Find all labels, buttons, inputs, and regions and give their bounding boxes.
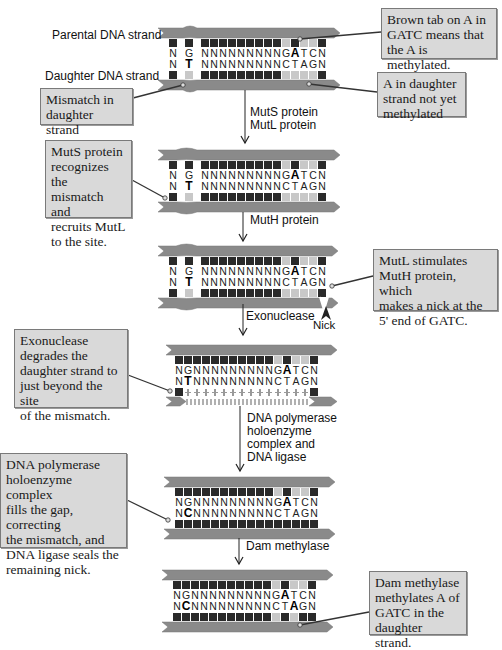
callout-line: daughter strand to [20, 363, 122, 378]
daughter-base-letter: N [255, 58, 263, 70]
daughter-base-tab [274, 520, 282, 528]
daughter-base-letter: T [282, 600, 289, 612]
leader-mutl [332, 276, 373, 286]
parental-base-tab [193, 356, 201, 364]
daughter-base-tab [282, 193, 290, 201]
daughter-base-letter: N [220, 507, 228, 519]
daughter-base-tab [193, 520, 201, 528]
parental-base-tab [202, 488, 210, 496]
daughter-base-letter: N [201, 58, 209, 70]
degraded-nucleotide [202, 399, 204, 405]
daughter-base-tab [255, 71, 263, 79]
daughter-base-letter: N [191, 600, 199, 612]
daughter-base-letter: T [292, 276, 299, 288]
callout-line: daughter strand [46, 107, 127, 137]
callout-dam: Dam methylase methylates A of GATC in th… [369, 571, 467, 635]
degraded-nucleotide [302, 399, 304, 405]
daughter-base-tab [200, 613, 208, 621]
parental-base-tab [210, 39, 218, 47]
parental-base-tab [246, 161, 254, 169]
parental-base-tab [219, 39, 227, 47]
degraded-nucleotide [198, 399, 200, 405]
degraded-nucleotide [222, 399, 224, 405]
daughter-base-tab [273, 193, 281, 201]
daughter-base-letter: N [173, 600, 181, 612]
daughter-base-letter: N [246, 180, 254, 192]
degraded-nucleotide [239, 392, 245, 393]
daughter-base-tab [256, 520, 264, 528]
daughter-base-letter: T [292, 180, 299, 192]
degraded-nucleotide [284, 392, 290, 393]
callout-line: just beyond the site [20, 378, 122, 408]
step-line: DNA ligase [247, 451, 337, 464]
degraded-nucleotide [294, 399, 296, 405]
parental-base-tab [173, 581, 181, 589]
parental-base-tab [273, 39, 281, 47]
daughter-base-tab [318, 289, 326, 297]
degraded-nucleotide [282, 399, 284, 405]
parental-base-tab [185, 39, 193, 47]
leader-muts [132, 180, 165, 198]
daughter-base-letter: T [292, 58, 299, 70]
callout-muts: MutS protein recognizes the mismatch and… [45, 140, 132, 218]
parental-base-tab [246, 39, 254, 47]
daughter-base-tab [309, 71, 317, 79]
daughter-base-tab [291, 193, 299, 201]
degraded-nucleotide [293, 392, 299, 393]
daughter-base-tab [263, 613, 271, 621]
daughter-base-letter: N [237, 58, 245, 70]
daughter-base-tab [237, 193, 245, 201]
daughter-base-letter: N [193, 507, 201, 519]
parental-base-tab [282, 257, 290, 265]
callout-line: MutH protein, which [379, 268, 492, 298]
parental-base-tab [228, 257, 236, 265]
parental-base-tab [210, 161, 218, 169]
daughter-base-tab [246, 193, 254, 201]
daughter-base-letter: N [265, 375, 273, 387]
callout-mismatch: Mismatch in daughter strand [40, 88, 133, 125]
daughter-base-tab [281, 613, 289, 621]
leader-exonuclease [128, 375, 170, 391]
leader-polymerase [127, 500, 168, 520]
parental-base-tab [255, 39, 263, 47]
daughter-base-letter: N [229, 507, 237, 519]
parental-base-tab [220, 356, 228, 364]
degraded-nucleotide [266, 392, 272, 393]
leader-exonuclease-dot [168, 389, 172, 393]
parental-base-tab [175, 356, 183, 364]
daughter-base-tab [247, 520, 255, 528]
parental-base-tab [185, 161, 193, 169]
daughter-base-letter: C [272, 600, 280, 612]
daughter-base-letter: A [292, 507, 299, 519]
callout-line: A in daughter [383, 76, 460, 91]
daughter-base-letter: N [255, 276, 263, 288]
daughter-base-tab [291, 71, 299, 79]
parental-base-tab [272, 581, 280, 589]
daughter-base-letter: N [245, 600, 253, 612]
daughter-base-letter: N [264, 180, 272, 192]
daughter-base-letter: N [238, 375, 246, 387]
step-line: Exonuclease [246, 310, 315, 323]
parental-base-tab [310, 356, 318, 364]
daughter-base-tab [185, 289, 193, 297]
daughter-base-letter: N [256, 375, 264, 387]
daughter-base-tab [219, 71, 227, 79]
daughter-base-letter: N [247, 375, 255, 387]
degraded-nucleotide [234, 399, 236, 405]
daughter-base-tab [169, 71, 177, 79]
parental-base-tab [264, 257, 272, 265]
callout-line: GATC means that [387, 27, 491, 42]
callout-line: fills the gap, correcting [6, 502, 121, 532]
parental-base-tab [201, 257, 209, 265]
daughter-base-letter: N [318, 276, 326, 288]
daughter-base-letter: N [228, 276, 236, 288]
daughter-base-tab [220, 520, 228, 528]
daughter-base-tab [175, 388, 183, 396]
parental-base-tab [274, 356, 282, 364]
leader-mutl-dot [330, 284, 334, 288]
callout-line: degrades the [20, 348, 122, 363]
daughter-base-letter: N [237, 276, 245, 288]
parental-base-tab [209, 581, 217, 589]
parental-base-tab [247, 356, 255, 364]
callout-polymerase: DNA polymerase holoenzyme complex fills … [0, 453, 127, 548]
